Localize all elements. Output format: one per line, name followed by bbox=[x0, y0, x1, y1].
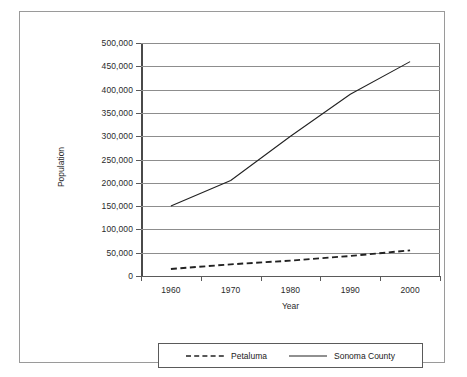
y-tick-label-250000: 250,000 bbox=[102, 155, 133, 165]
y-tick-label-0: 0 bbox=[128, 271, 133, 281]
y-tick-label-150000: 150,000 bbox=[102, 201, 133, 211]
x-tick-1985 bbox=[320, 276, 321, 281]
y-tick-label-350000: 350,000 bbox=[102, 108, 133, 118]
series-line-petaluma bbox=[171, 250, 410, 269]
x-tick-label-2000: 2000 bbox=[400, 285, 419, 295]
y-axis-title-label: Population bbox=[56, 147, 66, 187]
legend-item-sonoma-county: Sonoma County bbox=[289, 351, 395, 361]
y-tick-label-100000: 100,000 bbox=[102, 224, 133, 234]
plot-area: 050,000100,000150,000200,000250,000300,0… bbox=[141, 43, 440, 276]
y-tick-label-300000: 300,000 bbox=[102, 131, 133, 141]
series-lines bbox=[141, 43, 440, 276]
x-tick-1965 bbox=[201, 276, 202, 281]
y-tick-label-400000: 400,000 bbox=[102, 85, 133, 95]
chart-figure: Population 050,000100,000150,000200,0002… bbox=[0, 0, 467, 377]
x-tick-1995 bbox=[380, 276, 381, 281]
y-tick-label-200000: 200,000 bbox=[102, 178, 133, 188]
legend-label-sonoma-county: Sonoma County bbox=[334, 351, 395, 361]
x-tick-1955 bbox=[141, 276, 142, 281]
legend-swatch-dashed bbox=[186, 352, 224, 360]
y-tick-label-500000: 500,000 bbox=[102, 38, 133, 48]
x-axis-title-label: Year bbox=[282, 301, 299, 311]
x-tick-label-1970: 1970 bbox=[221, 285, 240, 295]
x-tick-label-1980: 1980 bbox=[281, 285, 300, 295]
series-line-sonoma-county bbox=[171, 62, 410, 206]
figure-frame: Population 050,000100,000150,000200,0002… bbox=[19, 11, 445, 363]
legend-swatch-solid bbox=[289, 352, 327, 360]
y-axis-title: Population bbox=[53, 122, 69, 212]
x-axis-title: Year bbox=[141, 301, 440, 311]
x-tick-label-1990: 1990 bbox=[341, 285, 360, 295]
x-tick-label-1960: 1960 bbox=[161, 285, 180, 295]
legend-label-petaluma: Petaluma bbox=[231, 351, 267, 361]
gridline-0 bbox=[141, 276, 440, 277]
legend-item-petaluma: Petaluma bbox=[186, 351, 267, 361]
x-tick-1975 bbox=[261, 276, 262, 281]
y-tick-label-450000: 450,000 bbox=[102, 61, 133, 71]
y-tick-label-50000: 50,000 bbox=[106, 248, 133, 258]
chart-legend: Petaluma Sonoma County bbox=[158, 343, 423, 368]
x-tick-2005 bbox=[440, 276, 441, 281]
